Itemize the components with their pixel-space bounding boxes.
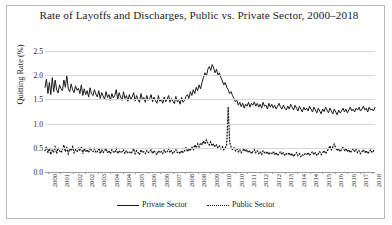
x-axis-tick-label: 2014 bbox=[312, 174, 319, 187]
x-axis-tick-label: 2010 bbox=[238, 174, 245, 187]
x-axis-tick-mark bbox=[372, 172, 373, 174]
x-axis-tick-label: 2006 bbox=[150, 174, 157, 187]
y-axis-tick-labels: 0.00.51.01.52.02.5 bbox=[0, 51, 43, 172]
x-axis-tick-labels: 2000200120022002200320042004200520062006… bbox=[45, 174, 375, 198]
y-axis-tick-label: 1.5 bbox=[5, 95, 43, 104]
x-axis-tick-mark bbox=[335, 172, 336, 174]
x-axis-tick-label: 2016 bbox=[350, 174, 357, 187]
legend-label-private: Private Sector bbox=[142, 200, 187, 209]
plot-area bbox=[45, 51, 375, 172]
x-axis-tick-mark bbox=[148, 172, 149, 174]
x-axis-tick-label: 2011 bbox=[250, 174, 257, 187]
y-axis-tick-label: 1.0 bbox=[5, 119, 43, 128]
x-axis-tick-mark bbox=[260, 172, 261, 174]
x-axis-tick-label: 2004 bbox=[113, 174, 120, 187]
chart-title: Rate of Layoffs and Discharges, Public v… bbox=[34, 8, 364, 22]
x-axis-tick-mark bbox=[135, 172, 136, 174]
x-axis-tick-label: 2016 bbox=[337, 174, 344, 187]
x-axis-tick-mark bbox=[235, 172, 236, 174]
x-axis-tick-label: 2010 bbox=[225, 174, 232, 187]
x-axis-tick-mark bbox=[48, 172, 49, 174]
x-axis-tick-label: 2014 bbox=[300, 174, 307, 187]
x-axis-tick-label: 2002 bbox=[76, 174, 83, 187]
x-axis-tick-mark bbox=[185, 172, 186, 174]
x-axis-tick-mark bbox=[322, 172, 323, 174]
x-axis-tick-label: 2009 bbox=[213, 174, 220, 187]
x-axis-tick-mark bbox=[160, 172, 161, 174]
x-axis-tick-label: 2012 bbox=[262, 174, 269, 187]
x-axis-tick-mark bbox=[198, 172, 199, 174]
x-axis-tick-label: 2002 bbox=[88, 174, 95, 187]
x-axis-tick-mark bbox=[297, 172, 298, 174]
x-axis-tick-mark bbox=[123, 172, 124, 174]
x-axis-tick-label: 2013 bbox=[287, 174, 294, 187]
y-axis-tick-label: 0.0 bbox=[5, 168, 43, 177]
x-axis-tick-mark bbox=[110, 172, 111, 174]
legend-label-public: Public Sector bbox=[232, 200, 275, 209]
chart-figure: Rate of Layoffs and Discharges, Public v… bbox=[0, 0, 392, 225]
gridline bbox=[45, 99, 375, 100]
x-axis-tick-label: 2008 bbox=[188, 174, 195, 187]
y-axis-tick-label: 2.5 bbox=[5, 47, 43, 56]
x-axis-tick-label: 2006 bbox=[163, 174, 170, 187]
y-axis-tick-label: 0.5 bbox=[5, 143, 43, 152]
y-axis-tick-label: 2.0 bbox=[5, 71, 43, 80]
x-axis-tick-label: 2004 bbox=[125, 174, 132, 187]
legend-swatch-private-icon bbox=[117, 205, 139, 206]
legend-item-public: Public Sector bbox=[207, 200, 275, 209]
x-axis-tick-mark bbox=[73, 172, 74, 174]
legend-item-private: Private Sector bbox=[117, 200, 187, 209]
x-axis-tick-mark bbox=[347, 172, 348, 174]
x-axis-tick-label: 2007 bbox=[175, 174, 182, 187]
x-axis-tick-label: 2000 bbox=[51, 174, 58, 187]
x-axis-tick-mark bbox=[285, 172, 286, 174]
x-axis-tick-mark bbox=[222, 172, 223, 174]
x-axis-tick-mark bbox=[310, 172, 311, 174]
x-axis-tick-label: 2001 bbox=[63, 174, 70, 187]
x-axis-tick-mark bbox=[210, 172, 211, 174]
gridline bbox=[45, 51, 375, 52]
x-axis-tick-mark bbox=[98, 172, 99, 174]
legend-swatch-public-icon bbox=[207, 205, 229, 206]
series-public-sector bbox=[45, 51, 375, 172]
gridline bbox=[45, 75, 375, 76]
x-axis-tick-mark bbox=[173, 172, 174, 174]
x-axis-tick-label: 2003 bbox=[100, 174, 107, 187]
x-axis-tick-label: 2018 bbox=[375, 174, 382, 187]
gridline bbox=[45, 148, 375, 149]
x-axis-tick-label: 2008 bbox=[200, 174, 207, 187]
chart-legend: Private Sector Public Sector bbox=[0, 200, 392, 209]
x-axis-tick-mark bbox=[85, 172, 86, 174]
x-axis-tick-label: 2005 bbox=[138, 174, 145, 187]
x-axis-tick-mark bbox=[60, 172, 61, 174]
x-axis-tick-label: 2017 bbox=[362, 174, 369, 187]
x-axis-tick-mark bbox=[360, 172, 361, 174]
line-public-sector bbox=[45, 107, 375, 157]
x-axis-tick-mark bbox=[272, 172, 273, 174]
x-axis-tick-mark bbox=[247, 172, 248, 174]
x-axis-tick-label: 2012 bbox=[275, 174, 282, 187]
gridline bbox=[45, 124, 375, 125]
x-axis-tick-label: 2015 bbox=[325, 174, 332, 187]
